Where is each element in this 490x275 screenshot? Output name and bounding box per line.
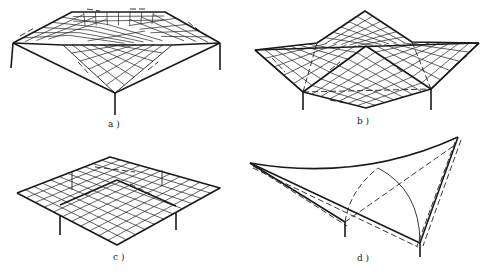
panel-a-label: a ) — [108, 119, 120, 129]
panel-a-structure — [11, 9, 220, 115]
panel-c-label: c ) — [113, 252, 124, 262]
diagram-canvas — [0, 0, 490, 275]
panel-b-structure — [255, 11, 479, 110]
panel-d-label: d ) — [357, 253, 369, 263]
panel-d-structure — [250, 137, 461, 257]
panel-b-label: b ) — [357, 116, 369, 126]
panel-c-structure — [17, 157, 220, 245]
